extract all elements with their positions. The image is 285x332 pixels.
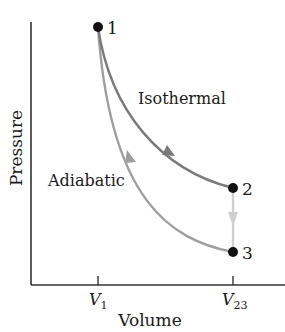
pv-diagram: V1 V23 Volume Pressure 1 2 3 Isothermal … [0, 0, 285, 332]
point-2 [228, 183, 238, 193]
point-1 [93, 22, 103, 32]
adiabatic-curve [98, 27, 233, 252]
tick-label-v23: V23 [222, 290, 248, 312]
y-axis-title: Pressure [6, 110, 26, 186]
adiabatic-arrow-icon [125, 150, 136, 163]
x-axis-title: Volume [117, 310, 182, 330]
adiabatic-label: Adiabatic [47, 171, 125, 190]
isothermal-arrow-icon [162, 145, 175, 156]
point-label-1: 1 [107, 18, 118, 38]
isothermal-label: Isothermal [138, 89, 226, 108]
point-label-3: 3 [242, 243, 253, 263]
point-3 [228, 247, 238, 257]
point-label-2: 2 [242, 179, 253, 199]
isochoric-arrow-icon [228, 212, 238, 226]
tick-label-v1: V1 [89, 290, 108, 312]
